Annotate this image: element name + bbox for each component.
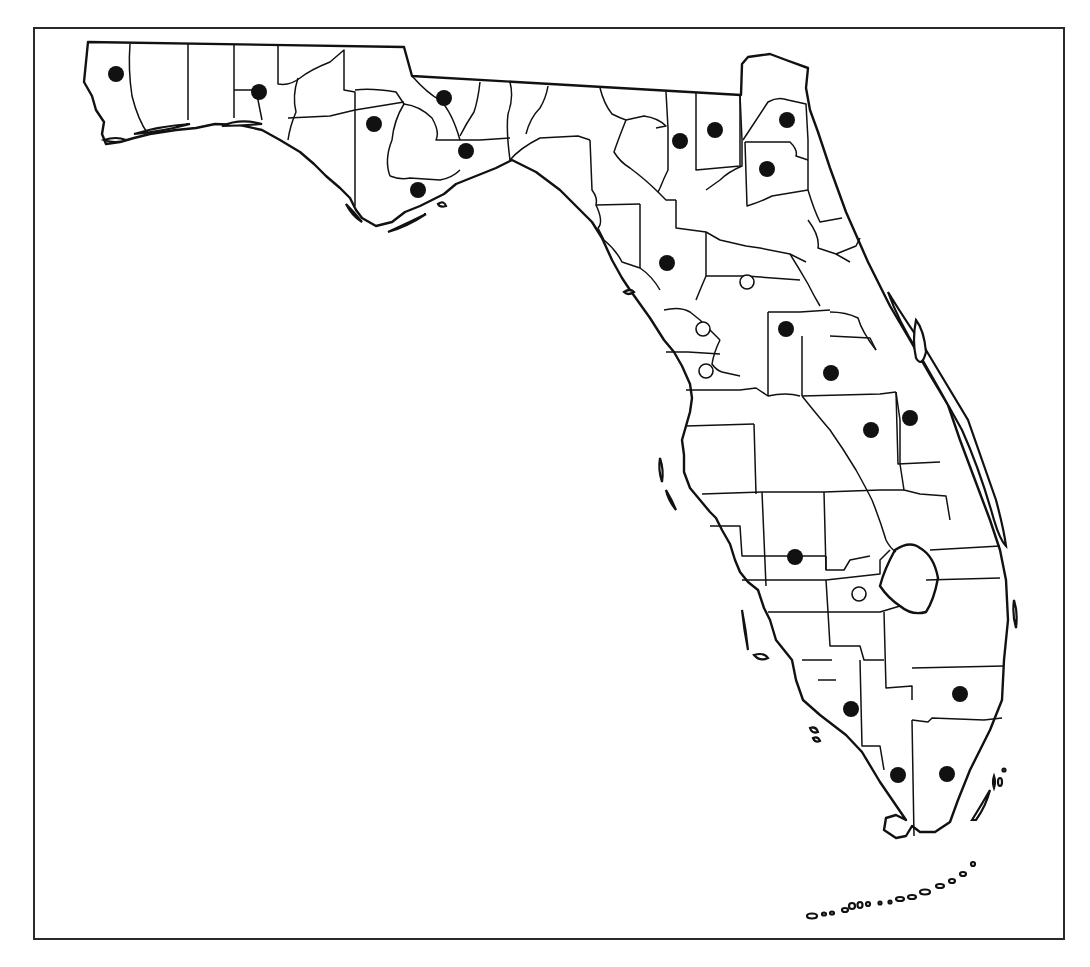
island <box>813 737 820 741</box>
barrier-island <box>659 458 662 482</box>
barrier-island-east <box>1013 600 1016 628</box>
barrier-island <box>438 202 446 206</box>
merritt-island <box>914 320 926 362</box>
florida-keys <box>972 790 990 820</box>
florida-map <box>0 0 1090 967</box>
barrier-island <box>754 654 768 659</box>
island <box>810 728 818 733</box>
barrier-island <box>666 490 676 510</box>
florida-keys <box>993 776 995 788</box>
state-outline <box>84 42 1008 838</box>
barrier-island <box>742 610 748 650</box>
island <box>624 290 634 294</box>
barrier-island <box>104 138 126 142</box>
